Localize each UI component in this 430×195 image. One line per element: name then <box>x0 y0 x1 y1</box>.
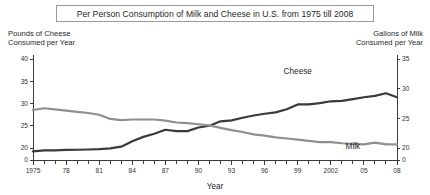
series-label-milk: Milk <box>346 142 361 151</box>
x-axis-tick-label: 93 <box>228 167 236 174</box>
series-label-group: CheeseMilk <box>284 67 361 150</box>
right-axis-tick-label: 20 <box>402 144 410 151</box>
chart-container: Per Person Consumption of Milk and Chees… <box>0 0 430 195</box>
x-axis-tick-label: 08 <box>393 167 401 174</box>
x-axis-tick-label: 05 <box>360 167 368 174</box>
left-axis: 02025303540 <box>21 55 33 163</box>
left-axis-tick-label: 40 <box>21 55 29 62</box>
x-axis-tick-label: 96 <box>261 167 269 174</box>
right-axis-tick-label: 25 <box>402 115 410 122</box>
left-axis-tick-label: 20 <box>21 144 29 151</box>
x-axis: 1975788184879093969920020508 <box>26 160 401 174</box>
left-axis-tick-label: 30 <box>21 100 29 107</box>
left-axis-tick-label: 25 <box>21 122 29 129</box>
chart-plot-area: 02025303540 020253035 197578818487909396… <box>0 0 430 195</box>
left-axis-tick-label: 0 <box>24 156 28 163</box>
series-line-milk <box>33 108 397 144</box>
right-axis: 020253035 <box>397 55 410 163</box>
x-axis-tick-label: 78 <box>62 167 70 174</box>
x-axis-tick-label: 84 <box>129 167 137 174</box>
x-axis-tick-label: 81 <box>96 167 104 174</box>
series-label-cheese: Cheese <box>284 67 313 76</box>
right-axis-tick-label: 35 <box>402 55 410 62</box>
x-axis-tick-label: 2002 <box>323 167 338 174</box>
x-axis-tick-label: 1975 <box>26 167 41 174</box>
x-axis-tick-label: 90 <box>195 167 203 174</box>
data-series-group <box>33 93 397 151</box>
left-axis-tick-label: 35 <box>21 78 29 85</box>
right-axis-tick-label: 0 <box>402 156 406 163</box>
x-axis-tick-label: 99 <box>294 167 302 174</box>
x-axis-tick-label: 87 <box>162 167 170 174</box>
x-axis-title: Year <box>207 182 224 191</box>
right-axis-tick-label: 30 <box>402 85 410 92</box>
